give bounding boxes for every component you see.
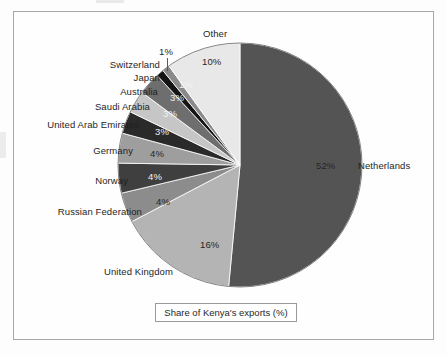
category-label-russian-federation: Russian Federation xyxy=(15,206,142,217)
category-label-switzerland: Switzerland xyxy=(25,59,160,70)
category-label-japan: Japan xyxy=(25,72,160,83)
pie-slice-netherlands xyxy=(229,43,362,287)
slice-percent-other: 10% xyxy=(202,56,221,67)
slice-percent-united-kingdom: 16% xyxy=(200,239,219,250)
category-label-netherlands: Netherlands xyxy=(358,160,410,171)
slice-percent-netherlands: 52% xyxy=(316,160,335,171)
category-label-norway: Norway xyxy=(18,175,128,186)
slice-percent-germany: 4% xyxy=(150,148,164,159)
slice-percent-united-arab-emirates: 3% xyxy=(155,126,169,137)
category-label-united-arab-emirates: United Arab Emirates xyxy=(12,119,139,130)
slice-percent-switzerland: 1% xyxy=(159,46,173,57)
slice-percent-norway: 4% xyxy=(148,171,162,182)
category-label-saudi-arabia: Saudi Arabia xyxy=(18,101,150,112)
slice-percent-saudi-arabia: 3% xyxy=(163,108,177,119)
category-label-germany: Germany xyxy=(18,145,133,156)
caption-box: Share of Kenya's exports (%) xyxy=(155,303,297,322)
category-label-australia: Australia xyxy=(20,86,158,97)
pie-chart-screenshot: 52% 16% 4% 4% 4% 3% 3% 3% 1% 1% 10% Othe… xyxy=(0,0,447,355)
switzerland-leader-line xyxy=(167,58,168,71)
slice-percent-japan: 1% xyxy=(179,79,193,90)
slice-percent-australia: 3% xyxy=(170,92,184,103)
slice-percent-russian-federation: 4% xyxy=(156,196,170,207)
caption-text: Share of Kenya's exports (%) xyxy=(164,307,287,318)
category-label-other: Other xyxy=(203,28,227,39)
category-label-united-kingdom: United Kingdom xyxy=(55,266,173,277)
